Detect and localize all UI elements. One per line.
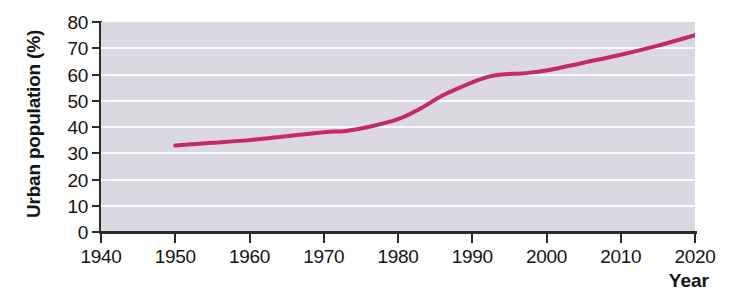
x-tick-label-2000: 2000 xyxy=(507,246,587,268)
y-tick-label-60: 60 xyxy=(36,65,88,84)
x-tick-mark-1980 xyxy=(397,234,399,243)
y-tick-label-80: 80 xyxy=(36,13,88,32)
x-tick-mark-1940 xyxy=(100,234,102,243)
x-tick-mark-2020 xyxy=(694,234,696,243)
plot-area xyxy=(101,22,695,232)
series-layer xyxy=(101,22,695,232)
x-tick-label-1990: 1990 xyxy=(432,246,512,268)
y-tick-label-50: 50 xyxy=(36,91,88,110)
y-tick-label-0: 0 xyxy=(36,223,88,242)
x-tick-label-1940: 1940 xyxy=(61,246,141,268)
series-line-urban-population xyxy=(175,35,695,145)
y-tick-label-70: 70 xyxy=(36,39,88,58)
x-tick-mark-1960 xyxy=(249,234,251,243)
x-tick-label-1980: 1980 xyxy=(358,246,438,268)
x-axis-title: Year xyxy=(669,270,709,292)
urban-population-line-chart: Urban population (%) 01020304050607080 1… xyxy=(0,0,731,298)
x-tick-label-2010: 2010 xyxy=(581,246,661,268)
x-tick-mark-1990 xyxy=(471,234,473,243)
y-tick-label-20: 20 xyxy=(36,170,88,189)
x-tick-mark-2010 xyxy=(620,234,622,243)
y-axis-tick-labels: 01020304050607080 xyxy=(36,10,88,246)
x-tick-label-1950: 1950 xyxy=(135,246,215,268)
y-tick-label-10: 10 xyxy=(36,196,88,215)
x-tick-label-1970: 1970 xyxy=(284,246,364,268)
x-tick-label-2020: 2020 xyxy=(655,246,731,268)
x-tick-mark-2000 xyxy=(546,234,548,243)
x-tick-label-1960: 1960 xyxy=(210,246,290,268)
x-tick-mark-1950 xyxy=(174,234,176,243)
y-tick-label-30: 30 xyxy=(36,144,88,163)
y-tick-label-40: 40 xyxy=(36,118,88,137)
x-tick-mark-1970 xyxy=(323,234,325,243)
